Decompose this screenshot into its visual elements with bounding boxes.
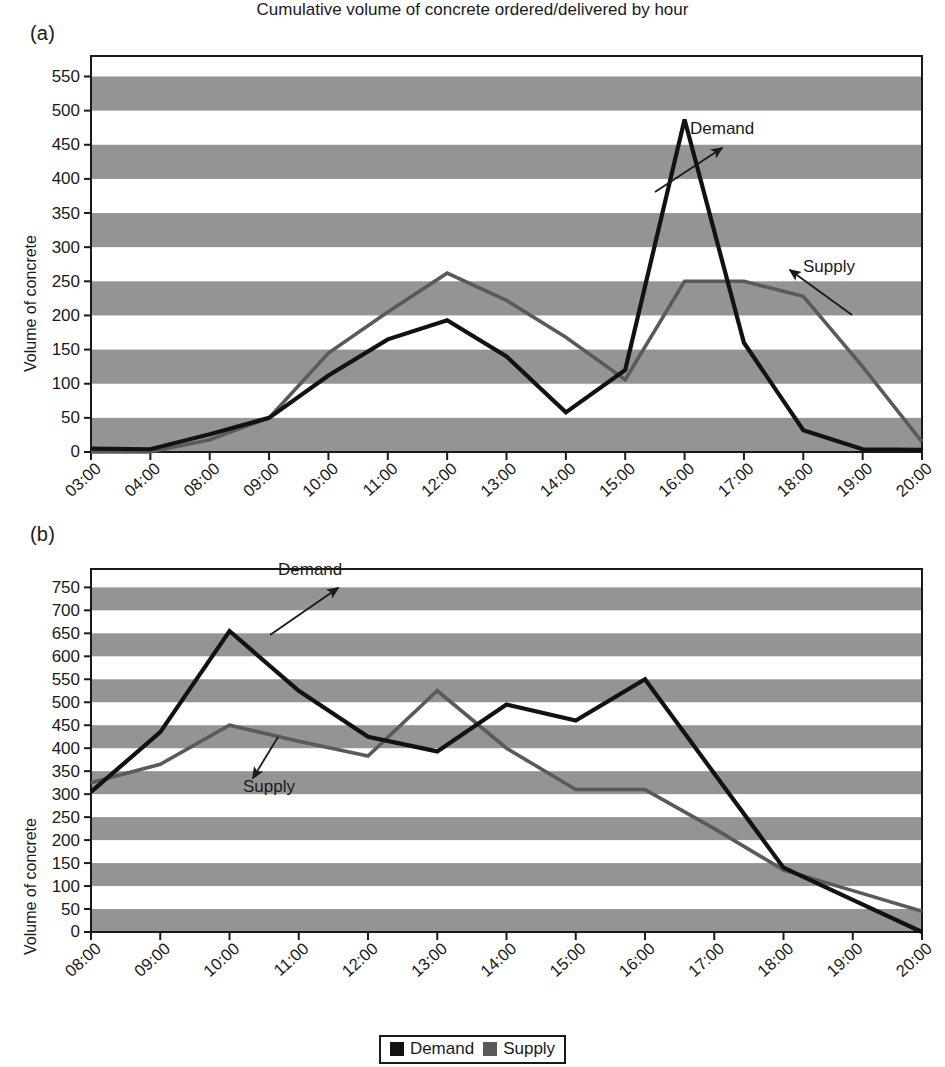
x-tick-label: 17:00 <box>714 459 757 500</box>
legend-item-supply: Supply <box>483 1039 555 1059</box>
panel-b-plot: 0501001502002503003504004505005506006507… <box>0 515 945 945</box>
legend-swatch-supply-icon <box>483 1042 497 1056</box>
y-tick-label: 500 <box>52 693 80 712</box>
x-axis-title: Cumulative volume of concrete ordered/de… <box>0 0 945 20</box>
legend-label-supply: Supply <box>503 1039 555 1059</box>
x-tick-label: 17:00 <box>685 939 728 980</box>
figure-page: (a) Volume of concrete 05010015020025030… <box>0 0 945 1067</box>
x-tick-label: 14:00 <box>536 459 579 500</box>
x-tick-label: 08:00 <box>61 939 104 980</box>
annotation-label-supply: Supply <box>803 257 855 276</box>
x-tick-label: 09:00 <box>239 459 282 500</box>
y-tick-label: 750 <box>52 578 80 597</box>
x-tick-label: 12:00 <box>417 459 460 500</box>
x-tick-label: 04:00 <box>121 459 164 500</box>
x-tick-label: 10:00 <box>299 459 342 500</box>
x-tick-label: 20:00 <box>892 939 935 980</box>
y-tick-label: 650 <box>52 624 80 643</box>
annotation-label-demand: Demand <box>690 119 754 138</box>
x-tick-label: 19:00 <box>823 939 866 980</box>
x-tick-label: 10:00 <box>200 939 243 980</box>
y-tick-label: 550 <box>52 670 80 689</box>
x-tick-label: 16:00 <box>655 459 698 500</box>
x-tick-label: 13:00 <box>477 459 520 500</box>
x-tick-label: 16:00 <box>615 939 658 980</box>
legend: Demand Supply <box>0 1035 945 1064</box>
y-tick-label: 150 <box>52 340 80 359</box>
y-tick-label: 350 <box>52 204 80 223</box>
y-tick-label: 100 <box>52 877 80 896</box>
y-tick-label: 50 <box>61 900 80 919</box>
x-tick-label: 03:00 <box>61 459 104 500</box>
x-tick-label: 18:00 <box>754 939 797 980</box>
y-tick-label: 50 <box>61 408 80 427</box>
x-tick-label: 11:00 <box>359 459 401 499</box>
chart-panel-a: (a) Volume of concrete 05010015020025030… <box>0 0 945 520</box>
x-tick-label: 15:00 <box>595 459 638 500</box>
legend-box: Demand Supply <box>379 1035 566 1064</box>
y-tick-label: 400 <box>52 739 80 758</box>
x-tick-label: 13:00 <box>408 939 451 980</box>
x-tick-label: 15:00 <box>546 939 589 980</box>
y-tick-label: 250 <box>52 272 80 291</box>
y-tick-label: 600 <box>52 647 80 666</box>
y-tick-label: 300 <box>52 238 80 257</box>
y-tick-label: 550 <box>52 67 80 86</box>
y-tick-label: 100 <box>52 374 80 393</box>
x-tick-label: 19:00 <box>833 459 876 500</box>
x-tick-label: 18:00 <box>774 459 817 500</box>
x-tick-label: 08:00 <box>180 459 223 500</box>
y-tick-label: 200 <box>52 306 80 325</box>
x-tick-label: 12:00 <box>338 939 381 980</box>
x-tick-label: 09:00 <box>131 939 174 980</box>
annotation-label-supply: Supply <box>243 777 295 796</box>
x-tick-label: 20:00 <box>892 459 935 500</box>
x-tick-label: 14:00 <box>477 939 520 980</box>
y-tick-label: 0 <box>71 922 80 941</box>
legend-swatch-demand-icon <box>390 1042 404 1056</box>
y-tick-label: 450 <box>52 716 80 735</box>
y-tick-label: 150 <box>52 854 80 873</box>
x-tick-label: 11:00 <box>270 939 312 979</box>
y-tick-label: 250 <box>52 808 80 827</box>
y-tick-label: 0 <box>71 442 80 461</box>
y-tick-label: 700 <box>52 601 80 620</box>
y-tick-label: 300 <box>52 785 80 804</box>
y-tick-label: 350 <box>52 762 80 781</box>
legend-item-demand: Demand <box>390 1039 474 1059</box>
y-tick-label: 200 <box>52 831 80 850</box>
legend-label-demand: Demand <box>410 1039 474 1059</box>
panel-a-plot: 05010015020025030035040045050055003:0004… <box>0 0 945 520</box>
y-tick-label: 400 <box>52 169 80 188</box>
y-tick-label: 450 <box>52 135 80 154</box>
y-tick-label: 500 <box>52 101 80 120</box>
chart-panel-b: (b) Volume of concrete 05010015020025030… <box>0 515 945 1067</box>
annotation-label-demand: Demand <box>278 560 342 579</box>
